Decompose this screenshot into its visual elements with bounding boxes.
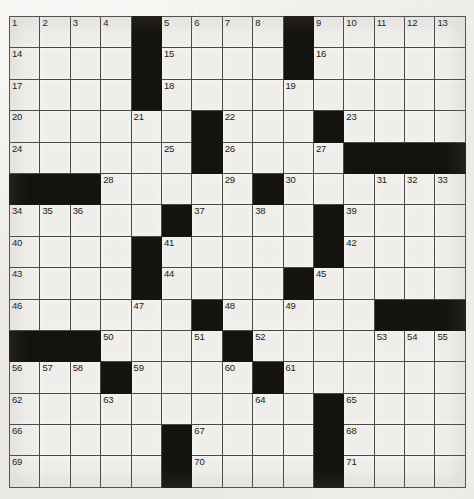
crossword-cell[interactable] bbox=[435, 393, 466, 424]
crossword-cell[interactable]: 57 bbox=[40, 362, 70, 393]
crossword-cell[interactable]: 5 bbox=[161, 17, 191, 48]
crossword-cell[interactable] bbox=[283, 142, 313, 173]
crossword-cell[interactable] bbox=[101, 111, 131, 142]
crossword-cell[interactable] bbox=[131, 173, 161, 204]
crossword-cell[interactable] bbox=[405, 111, 435, 142]
crossword-cell[interactable] bbox=[161, 173, 191, 204]
crossword-cell[interactable] bbox=[405, 79, 435, 110]
crossword-cell[interactable] bbox=[40, 79, 70, 110]
crossword-cell[interactable]: 11 bbox=[374, 17, 404, 48]
crossword-cell[interactable]: 34 bbox=[10, 205, 40, 236]
crossword-cell[interactable] bbox=[435, 362, 466, 393]
crossword-cell[interactable] bbox=[374, 393, 404, 424]
crossword-cell[interactable] bbox=[40, 393, 70, 424]
crossword-cell[interactable] bbox=[344, 173, 374, 204]
crossword-grid-container[interactable]: 1234567891011121314151617181920212223242… bbox=[9, 16, 466, 488]
crossword-cell[interactable]: 21 bbox=[131, 111, 161, 142]
crossword-cell[interactable]: 13 bbox=[435, 17, 466, 48]
crossword-cell[interactable] bbox=[253, 142, 283, 173]
crossword-cell[interactable]: 15 bbox=[161, 48, 191, 79]
crossword-cell[interactable] bbox=[101, 299, 131, 330]
crossword-cell[interactable]: 65 bbox=[344, 393, 374, 424]
crossword-cell[interactable] bbox=[435, 48, 466, 79]
crossword-cell[interactable]: 53 bbox=[374, 330, 404, 361]
crossword-cell[interactable]: 30 bbox=[283, 173, 313, 204]
crossword-cell[interactable]: 16 bbox=[313, 48, 343, 79]
crossword-cell[interactable] bbox=[192, 362, 222, 393]
crossword-cell[interactable] bbox=[435, 268, 466, 299]
crossword-cell[interactable] bbox=[161, 111, 191, 142]
crossword-cell[interactable] bbox=[313, 79, 343, 110]
crossword-cell[interactable] bbox=[40, 236, 70, 267]
crossword-cell[interactable] bbox=[253, 456, 283, 488]
crossword-cell[interactable] bbox=[405, 48, 435, 79]
crossword-cell[interactable]: 39 bbox=[344, 205, 374, 236]
crossword-cell[interactable]: 26 bbox=[222, 142, 252, 173]
crossword-cell[interactable] bbox=[131, 425, 161, 456]
crossword-cell[interactable] bbox=[313, 330, 343, 361]
crossword-cell[interactable] bbox=[253, 268, 283, 299]
crossword-cell[interactable] bbox=[344, 362, 374, 393]
crossword-cell[interactable] bbox=[40, 48, 70, 79]
crossword-cell[interactable]: 50 bbox=[101, 330, 131, 361]
crossword-cell[interactable]: 47 bbox=[131, 299, 161, 330]
crossword-cell[interactable]: 67 bbox=[192, 425, 222, 456]
crossword-cell[interactable]: 35 bbox=[40, 205, 70, 236]
crossword-cell[interactable]: 7 bbox=[222, 17, 252, 48]
crossword-cell[interactable]: 32 bbox=[405, 173, 435, 204]
crossword-cell[interactable] bbox=[192, 268, 222, 299]
crossword-cell[interactable]: 55 bbox=[435, 330, 466, 361]
crossword-cell[interactable]: 61 bbox=[283, 362, 313, 393]
crossword-cell[interactable] bbox=[101, 236, 131, 267]
crossword-cell[interactable] bbox=[192, 173, 222, 204]
crossword-cell[interactable]: 3 bbox=[70, 17, 100, 48]
crossword-cell[interactable] bbox=[435, 111, 466, 142]
crossword-cell[interactable]: 40 bbox=[10, 236, 40, 267]
crossword-cell[interactable]: 45 bbox=[313, 268, 343, 299]
crossword-cell[interactable]: 46 bbox=[10, 299, 40, 330]
crossword-cell[interactable]: 28 bbox=[101, 173, 131, 204]
crossword-cell[interactable]: 4 bbox=[101, 17, 131, 48]
crossword-cell[interactable] bbox=[192, 48, 222, 79]
crossword-cell[interactable]: 31 bbox=[374, 173, 404, 204]
crossword-cell[interactable]: 18 bbox=[161, 79, 191, 110]
crossword-cell[interactable] bbox=[101, 425, 131, 456]
crossword-grid[interactable]: 1234567891011121314151617181920212223242… bbox=[9, 16, 466, 488]
crossword-cell[interactable] bbox=[253, 236, 283, 267]
crossword-cell[interactable]: 66 bbox=[10, 425, 40, 456]
crossword-cell[interactable] bbox=[344, 299, 374, 330]
crossword-cell[interactable] bbox=[374, 268, 404, 299]
crossword-cell[interactable] bbox=[40, 299, 70, 330]
crossword-cell[interactable] bbox=[435, 425, 466, 456]
crossword-cell[interactable] bbox=[435, 79, 466, 110]
crossword-cell[interactable] bbox=[40, 456, 70, 488]
crossword-cell[interactable] bbox=[101, 79, 131, 110]
crossword-cell[interactable] bbox=[313, 362, 343, 393]
crossword-cell[interactable]: 1 bbox=[10, 17, 40, 48]
crossword-cell[interactable]: 48 bbox=[222, 299, 252, 330]
crossword-cell[interactable] bbox=[283, 393, 313, 424]
crossword-cell[interactable] bbox=[253, 48, 283, 79]
crossword-cell[interactable] bbox=[374, 205, 404, 236]
crossword-cell[interactable] bbox=[313, 173, 343, 204]
crossword-cell[interactable] bbox=[70, 425, 100, 456]
crossword-cell[interactable]: 9 bbox=[313, 17, 343, 48]
crossword-cell[interactable]: 10 bbox=[344, 17, 374, 48]
crossword-cell[interactable] bbox=[405, 425, 435, 456]
crossword-cell[interactable] bbox=[101, 268, 131, 299]
crossword-cell[interactable]: 69 bbox=[10, 456, 40, 488]
crossword-cell[interactable]: 33 bbox=[435, 173, 466, 204]
crossword-cell[interactable] bbox=[374, 48, 404, 79]
crossword-cell[interactable] bbox=[435, 205, 466, 236]
crossword-cell[interactable] bbox=[222, 425, 252, 456]
crossword-cell[interactable] bbox=[131, 330, 161, 361]
crossword-cell[interactable] bbox=[161, 393, 191, 424]
crossword-cell[interactable] bbox=[131, 456, 161, 488]
crossword-cell[interactable] bbox=[283, 456, 313, 488]
crossword-cell[interactable] bbox=[40, 268, 70, 299]
crossword-cell[interactable] bbox=[70, 393, 100, 424]
crossword-cell[interactable]: 42 bbox=[344, 236, 374, 267]
crossword-cell[interactable]: 25 bbox=[161, 142, 191, 173]
crossword-cell[interactable] bbox=[405, 393, 435, 424]
crossword-cell[interactable] bbox=[283, 236, 313, 267]
